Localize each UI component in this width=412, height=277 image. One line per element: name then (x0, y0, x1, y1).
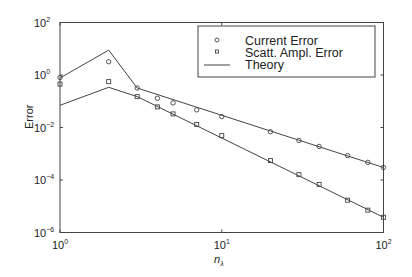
x-axis-label: nλ (214, 253, 224, 267)
legend: Current Error Scatt. Ampl. Error Theory (198, 26, 375, 77)
y-axis-label: Error (23, 104, 35, 129)
y-tick-label: 102 (34, 16, 50, 29)
current-error-point (171, 101, 175, 105)
y-tick-label: 10−6 (34, 226, 54, 239)
y-tick-label: 10−2 (34, 121, 54, 134)
current-error-point (106, 60, 110, 64)
x-tick-label: 102 (376, 238, 392, 251)
error-convergence-chart: 10010110210210010−210−410−6 Current Erro… (0, 0, 412, 277)
legend-label-theory: Theory (245, 58, 285, 72)
scatt-ampl-error-point (107, 80, 111, 84)
current-error-point (155, 96, 159, 100)
x-tick-label: 100 (52, 238, 68, 251)
current-error-point (194, 108, 198, 112)
y-tick-label: 100 (34, 68, 50, 81)
y-tick-label: 10−4 (34, 173, 54, 186)
x-tick-label: 101 (214, 238, 230, 251)
